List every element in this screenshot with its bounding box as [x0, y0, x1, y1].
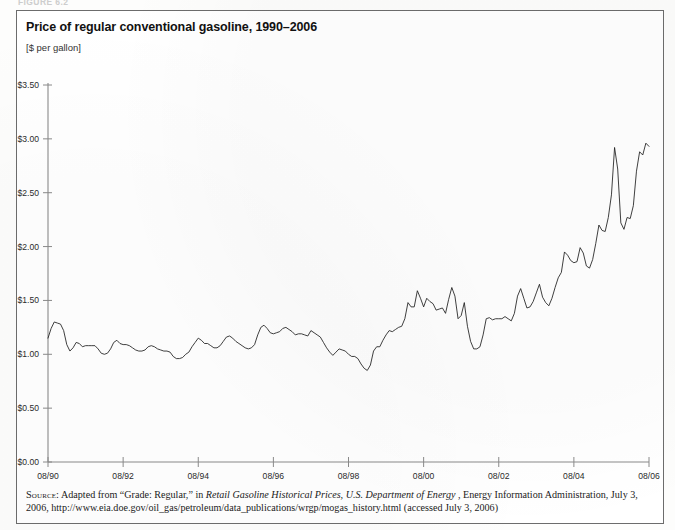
source-italic-title: Retail Gasoline Historical Prices, U.S. …: [206, 489, 456, 500]
source-text-a: Adapted from “Grade: Regular,” in: [61, 489, 206, 500]
source-text-line2: 2006, http://www.eia.doe.gov/oil_gas/pet…: [26, 502, 498, 513]
figure-page: FIGURE 6.2 Price of regular conventional…: [0, 0, 675, 530]
figure-caption: FIGURE 6.2: [18, 0, 68, 7]
chart-units-label: [$ per gallon]: [26, 42, 81, 53]
source-note: Source: Adapted from “Grade: Regular,” i…: [26, 488, 652, 514]
source-text-b: , Energy Information Administration, Jul…: [458, 489, 638, 500]
page-title: Price of regular conventional gasoline, …: [26, 20, 317, 34]
source-kicker: Source:: [26, 489, 59, 500]
figure-frame: [16, 10, 664, 524]
